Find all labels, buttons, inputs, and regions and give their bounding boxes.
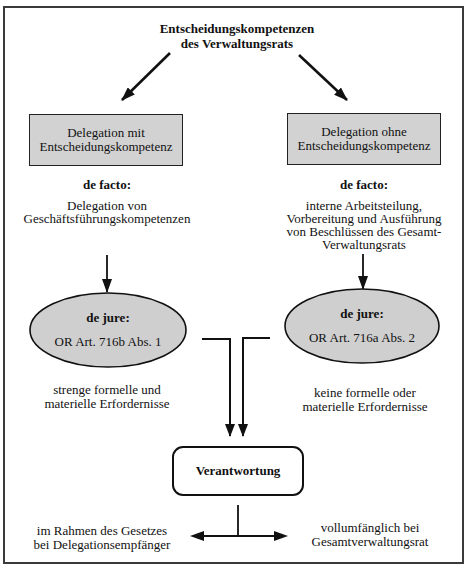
left-box-line-2: Entscheidungskompetenz [40,140,173,154]
right-responsibility-line-2: Gesamtverwaltungsrat [290,535,450,548]
left-de-facto-line-2: Geschäftsführungskompetenzen [17,212,197,225]
arrow-to-right-box [299,55,347,100]
right-de-jure-article: OR Art. 716a Abs. 2 [292,330,432,346]
arrow-to-left-box [122,53,170,100]
right-delegation-box: Delegation ohne Entscheidungskompetenz [287,113,441,165]
left-connector [202,339,230,436]
left-de-jure-ellipse [30,293,186,367]
right-box-line-2: Entscheidungskompetenz [298,139,431,153]
left-requirements-line-2: materielle Erfordernisse [27,397,187,410]
right-de-facto-label: de facto: [314,178,414,191]
left-responsibility-line-1: im Rahmen des Gesetzes [22,524,182,537]
left-de-jure-article: OR Art. 716b Abs. 1 [38,334,178,350]
right-connector [243,338,270,436]
left-de-jure-label: de jure: [48,310,168,326]
title-line-2: des Verwaltungsrats [130,37,344,50]
right-de-jure-ellipse [285,289,439,363]
left-de-facto-label: de facto: [57,178,157,191]
responsibility-box-label: Verantwortung [196,463,281,479]
left-delegation-box: Delegation mit Entscheidungskompetenz [29,114,183,166]
right-de-jure-label: de jure: [302,306,422,322]
left-responsibility-line-2: bei Delegationsempfänger [22,538,182,551]
right-de-facto-line-4: Verwaltungsrats [274,238,454,251]
right-box-line-1: Delegation ohne [321,125,407,139]
responsibility-box: Verantwortung [172,446,304,496]
left-box-line-1: Delegation mit [67,126,145,140]
right-requirements-line-1: keine formelle oder [285,386,445,399]
left-requirements-line-1: strenge formelle und [27,383,187,396]
right-requirements-line-2: materielle Erfordernisse [285,400,445,413]
right-responsibility-line-1: vollumfänglich bei [290,521,450,534]
title-line-1: Entscheidungskompetenzen [130,22,344,35]
